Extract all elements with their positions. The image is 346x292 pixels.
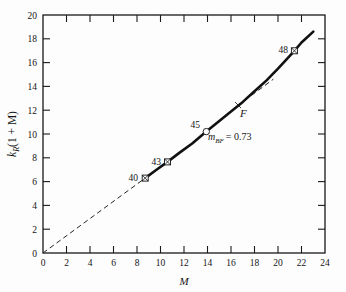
ytick-label: 20 (28, 11, 38, 21)
x-axis-ticks-top (67, 15, 302, 22)
x-axis-tick-labels: 0 2 4 6 8 10 12 14 16 18 20 22 24 (41, 258, 330, 268)
mbf-symbol: m (208, 131, 215, 142)
ytick-label: 14 (28, 82, 38, 92)
svg-text:kR(1 + M): kR(1 + M) (6, 111, 21, 157)
f-annotation-label: F (239, 107, 247, 119)
xtick-label: 14 (203, 258, 213, 268)
dashed-origin-extension (43, 178, 145, 253)
x-axis-title: M (178, 275, 189, 287)
xtick-label: 0 (41, 258, 46, 268)
ytick-label: 6 (32, 177, 37, 187)
data-point-label-40: 40 (129, 173, 139, 183)
y-axis-title-rest: (1 + M) (6, 111, 19, 147)
ytick-label: 12 (28, 106, 38, 116)
x-axis-ticks-bottom (43, 246, 302, 253)
ytick-label: 16 (28, 58, 38, 68)
xtick-label: 6 (111, 258, 116, 268)
xtick-label: 22 (297, 258, 307, 268)
solid-curve (145, 32, 313, 179)
xtick-label: 16 (226, 258, 236, 268)
data-point-40: 40 (129, 173, 149, 183)
y-axis-title: kR(1 + M) (6, 111, 21, 157)
xtick-label: 24 (320, 258, 330, 268)
xtick-label: 4 (88, 258, 93, 268)
ytick-label: 10 (28, 130, 38, 140)
svg-text:mBF= 0.73: mBF= 0.73 (208, 131, 251, 145)
xtick-label: 20 (273, 258, 283, 268)
ytick-label: 8 (32, 153, 37, 163)
xtick-label: 10 (156, 258, 166, 268)
data-point-label-43: 43 (152, 157, 162, 167)
chart-figure: 0 2 4 6 8 10 12 14 16 18 20 22 24 0 2 4 … (0, 0, 346, 292)
xtick-label: 8 (135, 258, 140, 268)
xtick-label: 18 (250, 258, 260, 268)
ytick-label: 0 (32, 249, 37, 259)
xtick-label: 2 (64, 258, 69, 268)
data-point-45: 45 (191, 120, 210, 135)
data-point-label-45: 45 (191, 120, 201, 130)
mbf-annotation: mBF= 0.73 (208, 131, 251, 145)
y-axis-ticks-left (43, 39, 50, 229)
data-point-label-48: 48 (279, 45, 289, 55)
data-point-48: 48 (279, 45, 298, 55)
xtick-label: 12 (179, 258, 189, 268)
ytick-label: 2 (32, 225, 37, 235)
ytick-label: 4 (32, 201, 37, 211)
mbf-subscript: BF (215, 137, 224, 145)
y-axis-ticks-right (318, 39, 325, 229)
y-axis-tick-labels: 0 2 4 6 8 10 12 14 16 18 20 (28, 11, 38, 259)
ytick-label: 18 (28, 34, 38, 44)
mbf-value: = 0.73 (226, 131, 252, 142)
plot-canvas: 0 2 4 6 8 10 12 14 16 18 20 22 24 0 2 4 … (0, 0, 346, 292)
